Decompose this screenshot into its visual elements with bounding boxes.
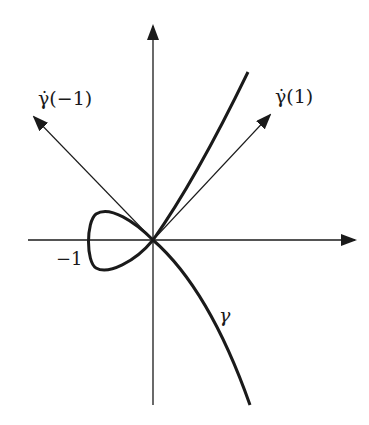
tangent-vector-1	[153, 115, 270, 240]
diagram-canvas: γ̇(−1) γ̇(1) −1 γ	[0, 0, 369, 425]
tangent-vector-minus1	[34, 117, 153, 240]
label-minus-one: −1	[56, 248, 83, 269]
label-gamma-dot-minus1: γ̇(−1)	[38, 87, 92, 109]
label-gamma: γ	[219, 304, 231, 326]
label-gamma-dot-1: γ̇(1)	[275, 85, 313, 107]
curve-gamma	[89, 72, 251, 405]
